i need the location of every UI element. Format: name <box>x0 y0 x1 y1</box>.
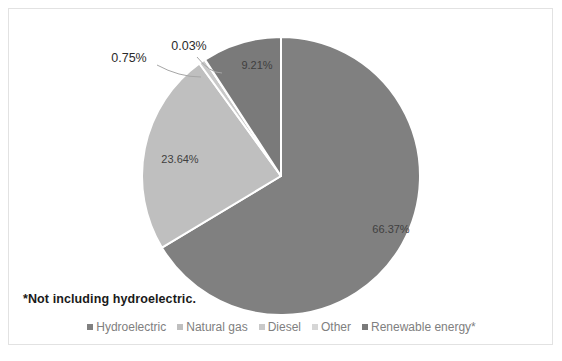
pie-slice-label: 66.37% <box>372 223 410 235</box>
pie-slice-label: 9.21% <box>241 59 272 71</box>
legend-swatch-icon <box>362 324 368 330</box>
legend-swatch-icon <box>259 324 265 330</box>
legend-item-label: Other <box>321 321 351 333</box>
legend-swatch-icon <box>87 324 93 330</box>
pie-slices-group <box>142 37 420 315</box>
legend-item-label: Natural gas <box>186 321 247 333</box>
legend-item[interactable]: Hydroelectric <box>87 321 166 333</box>
legend-item[interactable]: Other <box>312 321 351 333</box>
chart-legend: HydroelectricNatural gasDieselOtherRenew… <box>9 321 554 333</box>
chart-footnote: *Not including hydroelectric. <box>23 292 196 306</box>
pie-slice-label: 0.75% <box>111 51 146 65</box>
legend-item-label: Diesel <box>268 321 301 333</box>
legend-item[interactable]: Natural gas <box>177 321 247 333</box>
legend-item-label: Renewable energy* <box>371 321 476 333</box>
legend-item[interactable]: Diesel <box>259 321 301 333</box>
pie-slice-label: 23.64% <box>161 153 199 165</box>
legend-item-label: Hydroelectric <box>96 321 166 333</box>
legend-item[interactable]: Renewable energy* <box>362 321 476 333</box>
pie-slice-label: 0.03% <box>171 39 206 53</box>
legend-swatch-icon <box>312 324 318 330</box>
chart-frame: 66.37%23.64%0.75%0.03%9.21% *Not includi… <box>8 8 553 345</box>
legend-swatch-icon <box>177 324 183 330</box>
